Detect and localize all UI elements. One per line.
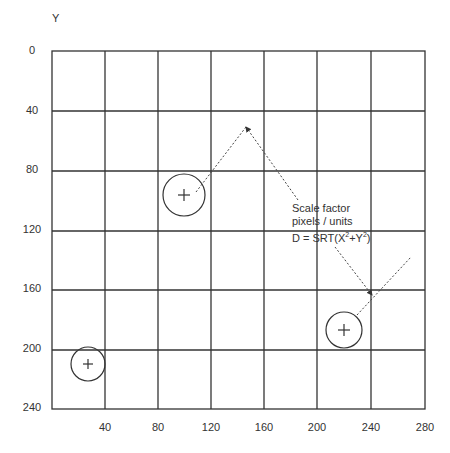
target-circle-1 bbox=[71, 347, 105, 381]
annotation-line-3: D = SRT(X2+Y2) bbox=[292, 228, 371, 245]
annotation-line-1: Scale factor bbox=[292, 202, 371, 215]
grid-diagram bbox=[0, 0, 450, 453]
formula-prefix: D = SRT(X bbox=[292, 232, 345, 244]
annotation-line-2: pixels / units bbox=[292, 215, 371, 228]
formula-suffix: ) bbox=[367, 232, 371, 244]
target-circle-2 bbox=[163, 174, 205, 216]
scale-factor-annotation: Scale factor pixels / units D = SRT(X2+Y… bbox=[292, 202, 371, 245]
formula-plus: +Y bbox=[349, 232, 363, 244]
target-circle-3 bbox=[326, 312, 362, 348]
